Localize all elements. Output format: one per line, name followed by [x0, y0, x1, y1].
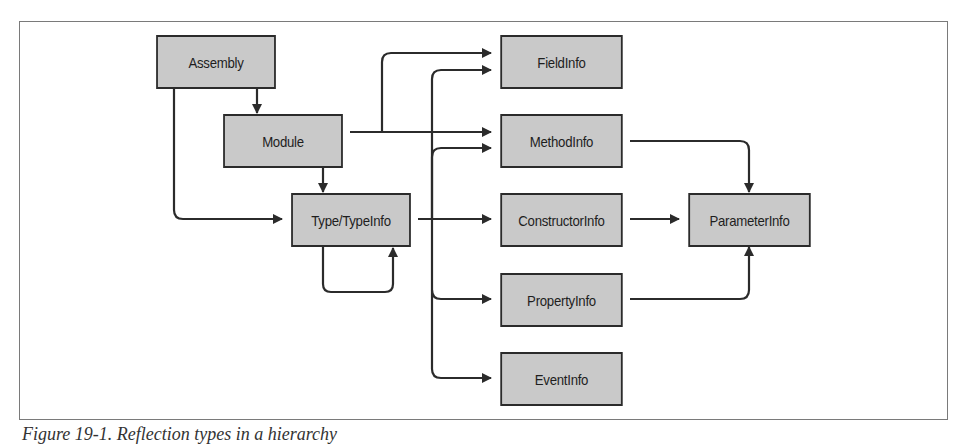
edge-type-property — [432, 219, 491, 299]
node-propertyinfo: PropertyInfo — [500, 273, 622, 327]
figure-caption: Figure 19-1. Reflection types in a hiera… — [22, 424, 337, 445]
edge-method-parameter — [630, 141, 749, 192]
node-eventinfo: EventInfo — [500, 352, 622, 406]
node-module: Module — [223, 114, 343, 168]
edge-type-event — [432, 290, 491, 378]
edge-type-method — [432, 148, 491, 219]
node-fieldinfo: FieldInfo — [500, 35, 622, 89]
edge-property-parameter — [630, 247, 749, 299]
edge-type-field — [432, 70, 491, 219]
node-constructorinfo: ConstructorInfo — [500, 193, 622, 247]
node-assembly: Assembly — [156, 35, 276, 89]
edge-module-field — [382, 53, 491, 132]
node-parameterinfo: ParameterInfo — [688, 193, 810, 247]
edge-type-self — [323, 247, 393, 292]
node-methodinfo: MethodInfo — [500, 114, 622, 168]
node-type-typeinfo: Type/TypeInfo — [291, 193, 411, 247]
